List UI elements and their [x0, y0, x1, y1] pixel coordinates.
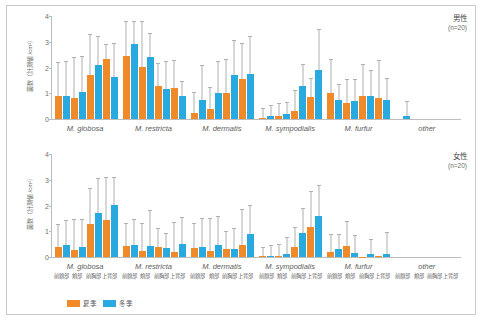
- error-bar: [226, 232, 227, 250]
- bar-winter: [351, 253, 358, 257]
- error-bar-cap: [277, 103, 281, 104]
- bar-item: [275, 154, 282, 257]
- bar-winter: [79, 92, 86, 119]
- bar-item: [191, 154, 198, 257]
- site-label: 上背部: [307, 274, 322, 280]
- error-bar: [150, 34, 151, 58]
- bar-item: [435, 154, 442, 257]
- bar-item: [123, 16, 130, 119]
- bar-summer: [87, 75, 94, 119]
- bar-winter: [179, 96, 186, 119]
- error-bar-cap: [148, 33, 152, 34]
- error-bar: [262, 248, 263, 256]
- bar-item: [163, 154, 170, 257]
- bar-cluster: [327, 154, 390, 257]
- error-bar: [302, 65, 303, 86]
- bar-item: [419, 154, 426, 257]
- bar-cluster: [55, 154, 118, 257]
- bar-item: [335, 16, 342, 119]
- error-bar: [82, 220, 83, 247]
- error-bar-cap: [285, 102, 289, 103]
- species-label: M. furfur: [324, 124, 392, 133]
- bar-item: [103, 154, 110, 257]
- error-bar-cap: [200, 218, 204, 219]
- bar-item: [247, 154, 254, 257]
- bar-item: [79, 154, 86, 257]
- error-bar-cap: [329, 234, 333, 235]
- error-bar: [194, 93, 195, 113]
- bar-winter: [267, 116, 274, 119]
- error-bar: [114, 44, 115, 77]
- site-label: 前額部: [122, 274, 137, 280]
- bar-item: [403, 16, 410, 119]
- error-bar: [278, 104, 279, 116]
- error-bar: [318, 186, 319, 216]
- error-bar: [286, 103, 287, 115]
- bar-summer: [291, 111, 298, 119]
- error-bar-cap: [112, 43, 116, 44]
- error-bar: [210, 88, 211, 109]
- error-bar-cap: [96, 178, 100, 179]
- bar-summer: [223, 93, 230, 119]
- error-bar-cap: [369, 239, 373, 240]
- bar-winter: [247, 234, 254, 257]
- bar-item: [283, 16, 290, 119]
- site-label: 前胸部: [427, 274, 442, 280]
- bar-winter: [231, 249, 238, 257]
- error-bar: [142, 224, 143, 252]
- error-bar-cap: [329, 59, 333, 60]
- species-label: M. furfur: [324, 262, 392, 271]
- site-label: 前胸部: [222, 274, 237, 280]
- bar-winter: [215, 93, 222, 119]
- error-bar: [166, 234, 167, 248]
- bar-item: [239, 16, 246, 119]
- bar-item: [411, 154, 418, 257]
- error-bar: [126, 22, 127, 55]
- site-label: 前胸部: [86, 274, 101, 280]
- error-bar-cap: [72, 57, 76, 58]
- error-bar-cap: [192, 223, 196, 224]
- y-tick-label: 0: [36, 116, 49, 123]
- error-bar: [98, 179, 99, 212]
- bar-item: [267, 16, 274, 119]
- error-bar-cap: [248, 36, 252, 37]
- bar-item: [55, 154, 62, 257]
- bar-winter: [111, 205, 118, 257]
- site-label: 上背部: [238, 274, 253, 280]
- error-bar: [270, 106, 271, 116]
- bar-winter: [199, 247, 206, 257]
- bar-winter: [163, 248, 170, 257]
- bar-summer: [71, 98, 78, 119]
- bar-summer: [239, 79, 246, 119]
- error-bar-cap: [309, 78, 313, 79]
- site-label-group: 前額部頬部前胸部上背部: [324, 274, 392, 280]
- error-bar: [218, 217, 219, 245]
- error-bar: [346, 80, 347, 103]
- bar-cluster: [123, 16, 186, 119]
- bar-winter: [63, 96, 70, 119]
- error-bar-cap: [385, 78, 389, 79]
- panel-male: 菌数（計測値 /cm²） 01234 M. globosaM. restrict…: [7, 8, 477, 150]
- bar-item: [155, 16, 162, 119]
- figure-frame: 菌数（計測値 /cm²） 01234 M. globosaM. restrict…: [6, 5, 476, 315]
- bar-item: [111, 154, 118, 257]
- bar-group: [188, 16, 256, 119]
- error-bar-cap: [80, 219, 84, 220]
- error-bar-cap: [64, 220, 68, 221]
- error-bar: [262, 109, 263, 118]
- bar-summer: [139, 251, 146, 257]
- error-bar: [90, 189, 91, 224]
- panel-label-male: 男性 (n=20): [448, 14, 467, 32]
- error-bar-cap: [132, 219, 136, 220]
- bar-item: [327, 16, 334, 119]
- error-bar: [346, 222, 347, 246]
- bar-winter: [111, 77, 118, 119]
- bar-summer: [155, 247, 162, 257]
- error-bar: [406, 102, 407, 116]
- error-bar-cap: [124, 223, 128, 224]
- bar-winter: [95, 65, 102, 119]
- bar-cluster: [191, 154, 254, 257]
- y-tick-label: 4: [36, 151, 49, 158]
- bar-item: [427, 16, 434, 119]
- error-bar-cap: [317, 185, 321, 186]
